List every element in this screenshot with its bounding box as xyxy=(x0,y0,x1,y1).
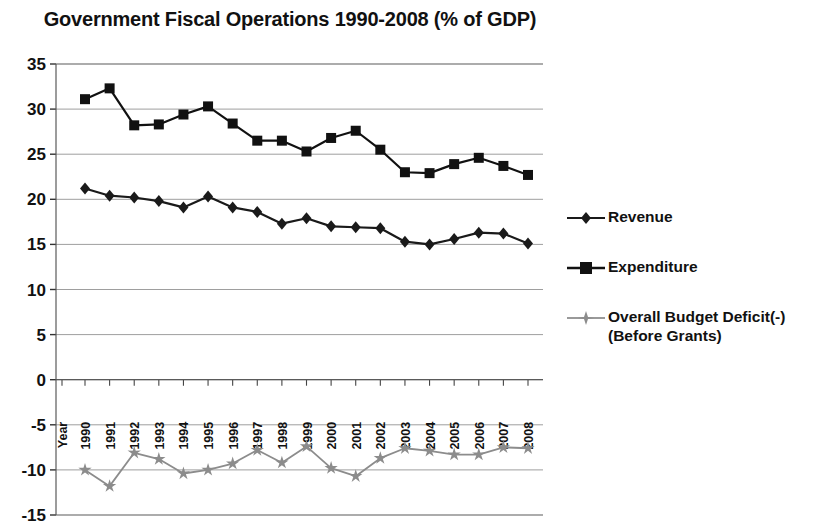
y-axis-tick-label: 10 xyxy=(27,281,46,300)
data-point-marker xyxy=(351,221,361,233)
data-point-marker xyxy=(523,237,533,249)
data-point-marker xyxy=(228,201,238,213)
x-axis-tick-label: 1998 xyxy=(276,422,290,450)
x-axis-title: Year xyxy=(56,422,70,449)
data-point-marker xyxy=(498,228,508,240)
y-axis-tick-label: 15 xyxy=(27,235,46,254)
data-point-marker xyxy=(105,190,115,202)
data-point-marker xyxy=(302,212,312,224)
data-point-marker xyxy=(80,182,90,194)
data-point-marker xyxy=(425,238,435,250)
x-axis-tick-label: 1996 xyxy=(227,422,241,450)
x-axis-tick-label: 1994 xyxy=(177,422,191,450)
data-point-marker xyxy=(154,195,164,207)
data-point-marker xyxy=(449,159,459,169)
data-point-marker xyxy=(400,236,410,248)
data-point-marker xyxy=(302,146,312,156)
x-axis-tick-label: 1995 xyxy=(202,422,216,450)
x-axis-tick-label: 2000 xyxy=(325,422,339,450)
data-point-marker xyxy=(80,94,90,104)
series-revenue xyxy=(80,182,533,250)
data-point-marker xyxy=(178,110,188,120)
series-overall-budget-deficit xyxy=(78,439,534,491)
y-axis-tick-label: -10 xyxy=(21,461,46,480)
legend-label-expenditure: Expenditure xyxy=(608,257,698,276)
y-axis-tick-label: 30 xyxy=(27,100,46,119)
data-point-marker xyxy=(226,457,239,470)
data-point-marker xyxy=(277,218,287,230)
data-point-marker xyxy=(252,136,262,146)
y-axis-tick-label: 25 xyxy=(27,145,46,164)
x-axis-tick-label: 2004 xyxy=(424,422,438,450)
y-axis-ticks-group: -15-10-505101520253035 xyxy=(21,55,56,525)
x-axis-tick-label: 1990 xyxy=(79,422,93,450)
data-point-marker xyxy=(203,101,213,111)
legend-item-expenditure[interactable]: Expenditure xyxy=(566,257,816,277)
data-point-marker xyxy=(326,133,336,143)
data-point-marker xyxy=(474,227,484,239)
y-axis-tick-label: -5 xyxy=(31,416,46,435)
data-point-marker xyxy=(154,119,164,129)
legend-label-revenue: Revenue xyxy=(608,207,673,226)
data-point-marker xyxy=(449,233,459,245)
data-point-marker xyxy=(400,167,410,177)
x-axis-tick-label: 2001 xyxy=(350,422,364,450)
chart-legend: Revenue Expenditure Overall Budget Defic… xyxy=(566,207,816,376)
x-axis-labels-group: Year199019911992199319941995199619971998… xyxy=(56,422,536,450)
data-point-marker xyxy=(523,170,533,180)
legend-item-revenue[interactable]: Revenue xyxy=(566,207,816,227)
data-point-marker xyxy=(105,83,115,93)
data-point-marker xyxy=(351,126,361,136)
data-point-marker xyxy=(375,222,385,234)
y-axis-tick-label: 5 xyxy=(37,326,46,345)
y-axis-tick-label: 20 xyxy=(27,190,46,209)
x-axis-tick-label: 2002 xyxy=(374,422,388,450)
data-point-marker xyxy=(326,220,336,232)
y-axis-tick-label: 0 xyxy=(37,371,46,390)
square-marker-icon xyxy=(566,259,606,277)
series-line xyxy=(85,446,528,486)
series-line xyxy=(85,88,528,175)
x-axis-tick-label: 1993 xyxy=(153,422,167,450)
legend-item-overall-budget-deficit[interactable]: Overall Budget Deficit(-) (Before Grants… xyxy=(566,307,816,346)
diamond-marker-icon xyxy=(566,209,606,227)
x-axis-tick-label: 1991 xyxy=(104,422,118,450)
x-axis-ticks-group xyxy=(62,380,528,386)
data-point-marker xyxy=(252,206,262,218)
data-point-marker xyxy=(425,168,435,178)
legend-label-overall-budget-deficit: Overall Budget Deficit(-) (Before Grants… xyxy=(608,307,785,346)
y-axis-tick-label: 35 xyxy=(27,55,46,74)
data-point-marker xyxy=(375,145,385,155)
y-axis-tick-label: -15 xyxy=(21,506,46,525)
data-point-marker xyxy=(129,191,139,203)
x-axis-tick-label: 1992 xyxy=(128,422,142,450)
series-expenditure xyxy=(80,83,533,180)
data-point-marker xyxy=(178,201,188,213)
data-point-marker xyxy=(277,136,287,146)
data-point-marker xyxy=(498,161,508,171)
data-point-marker xyxy=(228,119,238,129)
chart-container: Government Fiscal Operations 1990-2008 (… xyxy=(0,0,821,531)
x-axis-tick-label: 1997 xyxy=(251,422,265,450)
data-point-marker xyxy=(474,153,484,163)
data-point-marker xyxy=(129,120,139,130)
x-axis-tick-label: 2006 xyxy=(473,422,487,450)
star-marker-icon xyxy=(566,309,606,327)
data-point-marker xyxy=(203,191,213,203)
data-point-marker xyxy=(275,456,288,469)
x-axis-tick-label: 2005 xyxy=(448,422,462,450)
